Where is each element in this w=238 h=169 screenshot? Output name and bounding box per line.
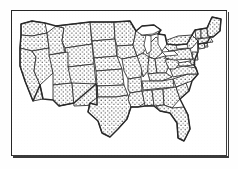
figure-container [0,0,238,169]
scan-grain-overlay [12,11,228,157]
united-states-map [12,11,228,157]
map-border-frame [11,10,227,156]
map-canvas [12,11,228,157]
